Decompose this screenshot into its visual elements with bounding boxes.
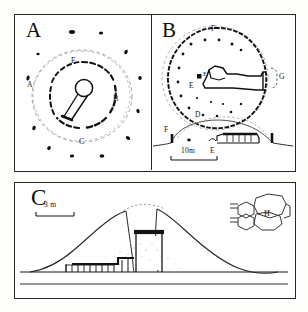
panel-a-label-C: C [79,138,84,146]
panel-c-drawing [16,184,292,295]
panel-c: 3 m H [16,184,292,295]
panel-b-section-label-F: F [164,126,168,134]
archaeological-figure: A B C F [0,0,308,312]
burial-chamber [197,66,227,88]
passage-terminal [62,116,72,120]
panel-b-label-G: G [279,73,284,81]
panel-b-label-F: F [211,25,215,33]
chamber-fill [138,236,160,270]
mound-profile [171,120,273,143]
panel-b-section [153,117,293,160]
scalebar-3m [36,212,74,216]
passage-lintels [72,258,134,264]
cairn-outline [168,28,266,128]
entrance-passage [63,94,88,119]
panel-b-section-label-E: E [210,147,215,155]
panel-b-label-D: D [195,111,200,119]
passage-mouth [209,139,216,141]
inset-h-motif [230,194,290,230]
interior-stones [177,39,243,118]
section-chamber [217,134,259,143]
panel-a-label-F: F [71,57,75,65]
section-stone [187,139,191,142]
scale-label-10m: 10m [181,146,195,155]
entrance-passage [223,72,266,90]
panel-b-letter: B [162,20,176,41]
scalebar-10m [171,156,217,160]
panel-divider [151,14,152,170]
panel-a-label-A: A [27,81,32,89]
panel-b-label-E-chamber: E [203,71,207,78]
panel-b-label-E: E [189,82,194,90]
panel-c-inset-label-H: H [264,210,270,218]
mound-left-flank [30,211,126,272]
g-bracket [271,68,277,88]
panel-a-label-B: B [113,95,118,103]
panel-c-letter: C [31,186,46,209]
mound-right-flank [157,209,278,273]
panel-a-letter: A [26,20,41,41]
